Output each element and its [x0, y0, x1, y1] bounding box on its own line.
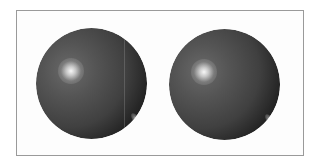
image-frame: [16, 10, 304, 156]
sphere-right-specular-highlight: [191, 59, 217, 85]
sphere-left-scan-artifact: [124, 28, 125, 139]
sphere-right-body: [169, 29, 280, 140]
sphere-right: [169, 29, 280, 140]
sphere-left-body: [36, 28, 147, 139]
sphere-left: [36, 28, 147, 139]
sphere-left-specular-highlight: [58, 58, 84, 84]
